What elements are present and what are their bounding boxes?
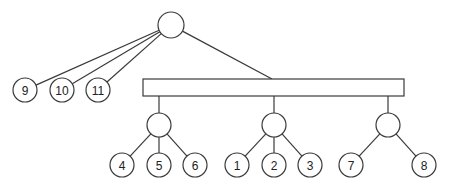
node-label: 8 <box>421 159 428 173</box>
internal-node-g2 <box>262 113 286 137</box>
leaf-node-2: 2 <box>262 153 286 177</box>
internal-node-g1 <box>147 113 171 137</box>
node-label: 3 <box>307 159 314 173</box>
root-node <box>158 12 184 38</box>
leaf-node-4: 4 <box>110 153 134 177</box>
node-label: 2 <box>271 159 278 173</box>
nodes-layer: 9101145612378 <box>13 12 436 177</box>
node-label: 1 <box>234 159 241 173</box>
node-circle <box>262 113 286 137</box>
leaf-node-5: 5 <box>147 153 171 177</box>
edge-g3-n8 <box>396 134 416 156</box>
node-label: 5 <box>156 159 163 173</box>
node-label: 7 <box>348 159 355 173</box>
leaf-node-7: 7 <box>339 153 363 177</box>
edge-root-n10 <box>72 32 160 84</box>
node-label: 6 <box>192 159 199 173</box>
edge-root-bar <box>182 31 272 79</box>
tree-diagram: 9101145612378 <box>0 0 451 190</box>
leaf-node-11: 11 <box>86 78 110 102</box>
edge-g3-n7 <box>359 134 380 156</box>
node-circle <box>147 113 171 137</box>
leaf-node-9: 9 <box>13 78 37 102</box>
node-label: 9 <box>22 84 29 98</box>
edge-g1-n6 <box>167 134 187 156</box>
edge-g2-n1 <box>245 134 266 156</box>
leaf-node-8: 8 <box>412 153 436 177</box>
group-bar <box>143 79 404 96</box>
node-label: 4 <box>119 159 126 173</box>
node-label: 11 <box>92 84 105 98</box>
leaf-node-3: 3 <box>298 153 322 177</box>
leaf-node-6: 6 <box>183 153 207 177</box>
leaf-node-10: 10 <box>50 78 74 102</box>
edge-g1-n4 <box>130 134 151 156</box>
leaf-node-1: 1 <box>225 153 249 177</box>
edge-root-n9 <box>36 30 159 85</box>
internal-node-g3 <box>376 113 400 137</box>
node-circle <box>158 12 184 38</box>
edge-g2-n3 <box>282 134 302 156</box>
node-label: 10 <box>55 84 69 98</box>
node-circle <box>376 113 400 137</box>
